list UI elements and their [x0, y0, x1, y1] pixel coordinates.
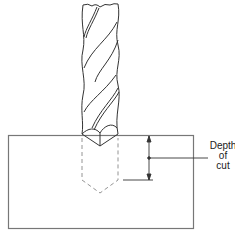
- depth-of-cut-label: Depth of cut: [208, 141, 235, 171]
- tool-left-edge: [82, 5, 84, 134]
- diagram-canvas: [0, 0, 235, 230]
- flute-line: [84, 7, 97, 37]
- depth-dimension: [123, 136, 208, 180]
- workpiece-block: [9, 136, 194, 229]
- flute-line: [94, 92, 119, 130]
- flute-line: [86, 8, 99, 38]
- arrow-up-icon: [147, 136, 151, 142]
- tool-tip-facet: [82, 129, 100, 146]
- arrow-down-icon: [147, 174, 151, 180]
- tool-right-edge: [117, 4, 119, 134]
- tool-top-edge: [83, 4, 118, 7]
- flute-line: [84, 75, 116, 112]
- end-mill-tool: [82, 4, 119, 146]
- flute-line: [92, 88, 118, 128]
- label-line-3: cut: [208, 161, 235, 171]
- tool-tip-facet: [100, 125, 117, 133]
